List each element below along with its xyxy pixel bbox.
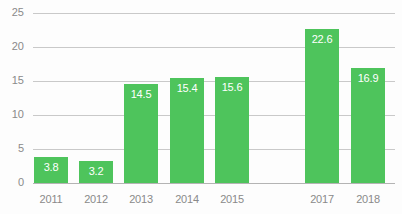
x-axis-tick-label: 2013 (118, 194, 164, 205)
bar[interactable]: 3.2 (79, 161, 113, 183)
bar-value-label: 15.4 (170, 83, 204, 94)
bar[interactable]: 15.6 (215, 77, 249, 183)
bar[interactable]: 16.9 (351, 68, 385, 183)
bar-value-label: 3.2 (79, 166, 113, 177)
bar[interactable]: 14.5 (124, 84, 158, 183)
bar[interactable]: 22.6 (305, 29, 339, 183)
gridline (33, 115, 395, 116)
gridline (33, 47, 395, 48)
x-axis-tick-label: 2017 (299, 194, 345, 205)
bar-value-label: 22.6 (305, 34, 339, 45)
bar-chart: 05101520253.820113.2201214.5201315.42014… (0, 0, 402, 214)
bar[interactable]: 15.4 (170, 78, 204, 183)
y-axis-tick-label: 10 (12, 109, 24, 120)
x-axis-tick-label: 2014 (164, 194, 210, 205)
y-axis-tick-label: 15 (12, 75, 24, 86)
gridline (33, 149, 395, 150)
gridline (33, 13, 395, 14)
bar-value-label: 15.6 (215, 82, 249, 93)
y-axis-tick-label: 25 (12, 7, 24, 18)
y-axis-tick-label: 5 (18, 143, 24, 154)
x-axis-tick-label: 2018 (345, 194, 391, 205)
x-axis-tick-label: 2012 (73, 194, 119, 205)
gridline (33, 81, 395, 82)
x-axis-line (33, 183, 395, 184)
bar-value-label: 16.9 (351, 73, 385, 84)
y-axis-tick-label: 20 (12, 41, 24, 52)
x-axis-tick-label: 2015 (209, 194, 255, 205)
bar[interactable]: 3.8 (34, 157, 68, 183)
bar-value-label: 3.8 (34, 162, 68, 173)
bar-value-label: 14.5 (124, 89, 158, 100)
y-axis-tick-label: 0 (18, 177, 24, 188)
x-axis-tick-label: 2011 (28, 194, 74, 205)
